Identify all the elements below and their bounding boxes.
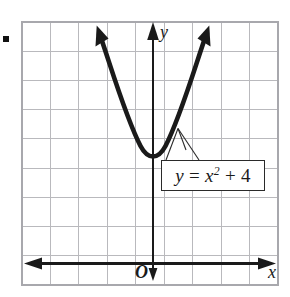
graph-figure: y = x2 + 4 y x O bbox=[0, 0, 290, 297]
equation-base: x bbox=[205, 165, 214, 186]
origin-label: O bbox=[135, 262, 148, 283]
equation-exponent: 2 bbox=[214, 164, 220, 177]
equation-callout-box: y = x2 + 4 bbox=[161, 160, 265, 191]
equation-plus: + bbox=[225, 165, 236, 186]
y-axis-label: y bbox=[160, 22, 168, 43]
equation-constant: 4 bbox=[241, 165, 251, 186]
grid-background bbox=[22, 22, 278, 285]
x-axis-label: x bbox=[268, 262, 276, 283]
equation-equals: = bbox=[189, 165, 200, 186]
corner-marker bbox=[3, 36, 9, 42]
equation-text: y = x2 + 4 bbox=[175, 165, 251, 187]
equation-lhs: y bbox=[175, 165, 184, 186]
coordinate-plane-svg bbox=[0, 0, 290, 297]
